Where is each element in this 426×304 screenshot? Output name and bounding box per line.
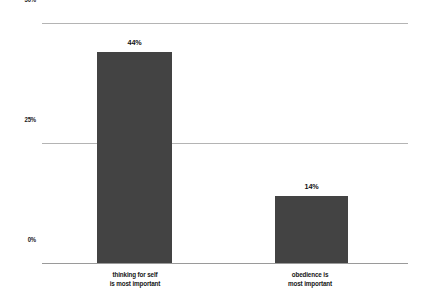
x-axis-category-label-thinking-for-self: thinking for self is most important [65, 270, 205, 289]
gridline-50 [42, 23, 408, 24]
category-label-line-2: is most important [65, 279, 205, 288]
bar-thinking-for-self [97, 52, 172, 263]
category-label-line-1: obedience is [240, 270, 380, 279]
y-axis-tick-label-0: 0% [5, 237, 36, 244]
y-axis-tick-label-50: 50% [5, 0, 36, 4]
category-label-line-1: thinking for self [65, 270, 205, 279]
category-label-line-2: most important [240, 279, 380, 288]
bar-value-label-thinking-for-self: 44% [101, 39, 169, 47]
bar-obedience [275, 196, 348, 263]
bar-value-label-obedience: 14% [279, 183, 345, 191]
gridline-baseline [42, 263, 408, 264]
plot-area: 44% 14% [42, 23, 408, 263]
y-axis-tick-label-25: 25% [5, 117, 36, 124]
x-axis-category-label-obedience: obedience is most important [240, 270, 380, 289]
bar-chart: 50% 25% 0% 44% 14% thinking for self is … [0, 0, 426, 304]
